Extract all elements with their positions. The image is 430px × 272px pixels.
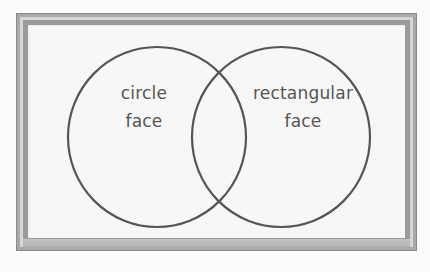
venn-diagram-canvas: circle face rectangular face (0, 0, 430, 272)
left-set-circle (68, 47, 246, 227)
right-set-label-line2: face (236, 107, 370, 135)
venn-circles (0, 0, 430, 272)
left-set-label-line1: circle (104, 79, 184, 107)
right-set-circle (192, 47, 370, 227)
left-set-label: circle face (104, 79, 184, 135)
right-set-label-line1: rectangular (236, 79, 370, 107)
left-set-label-line2: face (104, 107, 184, 135)
right-set-label: rectangular face (236, 79, 370, 135)
